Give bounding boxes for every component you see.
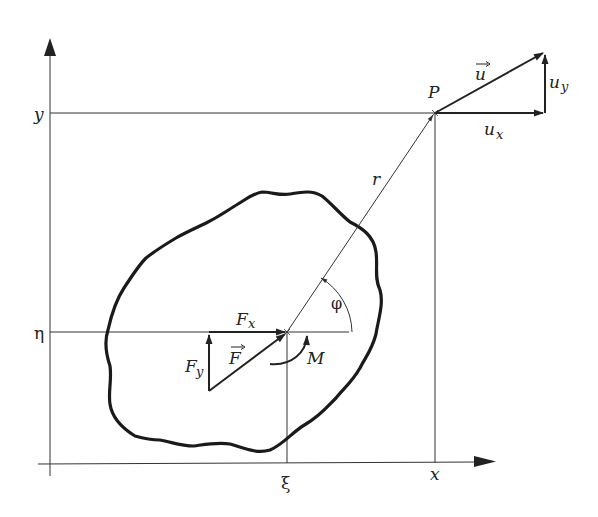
angle-label: φ bbox=[331, 294, 342, 313]
y-axis-arrow-icon bbox=[44, 38, 56, 56]
fy-label: F y bbox=[184, 356, 204, 379]
uy-label: u y bbox=[549, 72, 569, 94]
radius-vector bbox=[287, 115, 433, 332]
eta-label: η bbox=[34, 323, 44, 343]
free-body-diagram: y η ξ x P r φ u u y u x F x F y F M bbox=[0, 0, 598, 517]
xi-label: ξ bbox=[281, 473, 290, 493]
f-vector-label: F bbox=[228, 345, 245, 369]
svg-text:F: F bbox=[235, 309, 249, 329]
svg-text:y: y bbox=[195, 364, 204, 379]
y-axis bbox=[44, 38, 56, 476]
svg-text:y: y bbox=[560, 79, 569, 94]
fx-label: F x bbox=[235, 309, 256, 331]
u-vector bbox=[435, 53, 543, 113]
ux-label: u x bbox=[484, 119, 504, 142]
radius-label: r bbox=[372, 169, 381, 189]
point-p-label: P bbox=[427, 82, 440, 102]
x-axis-arrow-icon bbox=[474, 456, 496, 467]
u-vector-label: u bbox=[475, 62, 490, 85]
svg-text:u: u bbox=[549, 72, 560, 92]
y-level-label: y bbox=[33, 104, 44, 124]
svg-text:F: F bbox=[228, 348, 242, 368]
svg-text:u: u bbox=[484, 119, 495, 139]
x-level-label: x bbox=[430, 464, 440, 484]
svg-text:u: u bbox=[475, 64, 486, 84]
svg-text:x: x bbox=[496, 127, 504, 142]
f-vector bbox=[209, 334, 285, 391]
x-axis bbox=[38, 456, 496, 467]
svg-text:x: x bbox=[248, 316, 256, 331]
moment-label: M bbox=[306, 348, 325, 368]
